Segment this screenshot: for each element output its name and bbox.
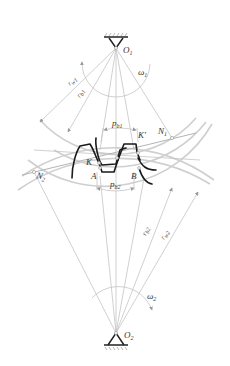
rb1-line <box>68 48 116 132</box>
point-n1 <box>170 136 173 139</box>
point-a <box>99 167 102 170</box>
point-pitch <box>116 157 119 160</box>
point-k <box>98 162 101 165</box>
gear-mesh-diagram: O1 O2 ω1 ω2 rw1 rb1 rb2 rw2 pb1 pb2 N1 N… <box>0 0 230 366</box>
label-k: K <box>85 157 93 167</box>
rb2-line <box>116 188 172 333</box>
label-o2: O2 <box>124 330 134 341</box>
label-rb1: rb1 <box>75 87 87 99</box>
rw2-line <box>116 192 198 333</box>
label-pb1: pb1 <box>111 118 123 129</box>
label-k-prime: K′ <box>137 130 147 140</box>
label-rb2: rb2 <box>140 226 151 237</box>
radial-line-2a <box>100 176 116 333</box>
base-circle-2 <box>22 148 214 180</box>
point-n2 <box>32 170 35 173</box>
gear1-radii <box>40 48 172 150</box>
point-b <box>138 167 141 170</box>
radial-line-2b <box>116 178 144 333</box>
o1-n1-line <box>116 48 172 138</box>
label-omega1: ω1 <box>138 67 147 78</box>
label-b: B <box>131 171 137 181</box>
line-of-action <box>22 133 196 175</box>
label-omega2: ω2 <box>147 291 156 302</box>
rw1-line <box>40 48 116 122</box>
label-o1: O1 <box>123 45 133 56</box>
radial-line-1b <box>116 48 134 150</box>
label-a: A <box>90 171 97 181</box>
o2-n2-line <box>34 172 116 333</box>
label-pb2: pb2 <box>109 179 121 190</box>
point-k-prime <box>137 152 140 155</box>
label-rw2: rw2 <box>159 229 171 242</box>
